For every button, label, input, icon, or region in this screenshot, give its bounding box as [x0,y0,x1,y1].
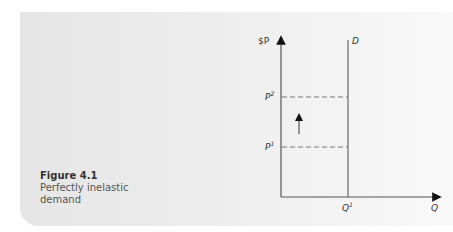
curve-label-d: D [352,36,359,46]
p1-label: P1 [265,140,274,152]
q1-label: Q1 [342,201,353,213]
demand-diagram: $P D P2 P1 Q1 Q [0,0,453,232]
x-axis-label: Q [431,203,438,213]
p2-label: P2 [265,90,274,102]
y-axis-label: $P [258,36,270,46]
